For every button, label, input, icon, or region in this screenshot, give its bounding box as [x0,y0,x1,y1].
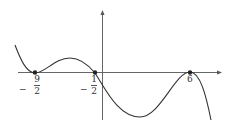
label-den: 2 [34,87,40,96]
y-axis-arrow-icon [101,10,105,15]
label-neg-9-2: 9 2 [34,75,40,96]
label-sign-2: − [80,84,88,94]
label-neg-1-2: 1 2 [91,75,97,96]
label-sign-1: − [19,84,27,94]
function-curve [15,45,211,120]
x-axis-arrow-icon [217,71,222,75]
label-num: 9 [34,75,40,84]
label-den: 2 [91,87,97,96]
graph-canvas [0,0,232,127]
label-6: 6 [187,75,193,84]
label-num: 1 [91,75,97,84]
